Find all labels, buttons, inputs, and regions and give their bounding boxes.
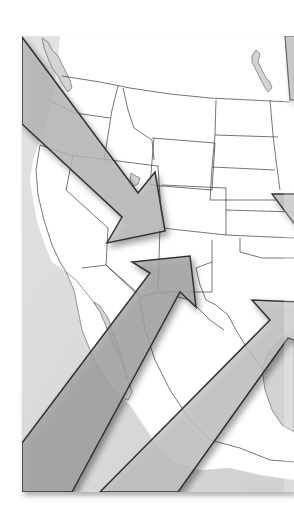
right-fade [284, 36, 294, 492]
map-svg [0, 0, 294, 522]
map-illustration [0, 0, 294, 522]
